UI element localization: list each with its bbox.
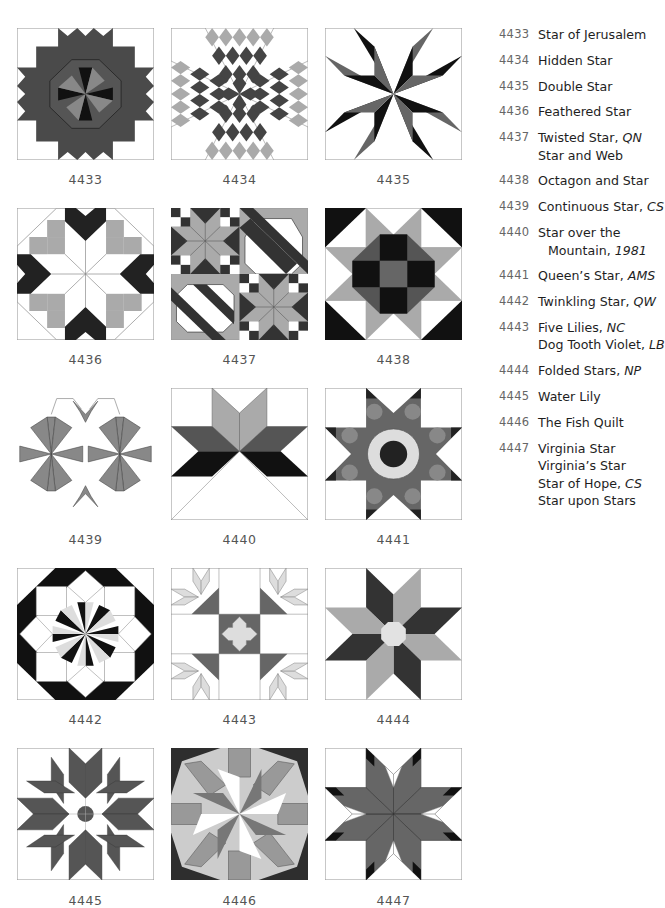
quilt-block-4445 bbox=[17, 748, 154, 880]
source-abbrev: LB bbox=[649, 337, 665, 352]
block-number: 4444 bbox=[499, 362, 538, 380]
block-number: 4442 bbox=[499, 293, 538, 311]
index-entry: 4447 Virginia Star Virginia’s Star Star … bbox=[499, 440, 664, 510]
block-caption: 4437 bbox=[171, 352, 308, 367]
quilt-block-4434 bbox=[171, 28, 308, 160]
index-entry: 4439 Continuous Star, CS bbox=[499, 198, 664, 216]
block-name: Twisted Star, bbox=[538, 130, 622, 145]
fish-quilt-illustration bbox=[171, 748, 308, 880]
quilt-block-4440 bbox=[171, 388, 308, 520]
feathered-star-illustration bbox=[17, 208, 154, 340]
octagon-and-star-illustration bbox=[325, 208, 462, 340]
block-name: Star of Jerusalem bbox=[538, 27, 646, 42]
block-name: Water Lily bbox=[538, 389, 601, 404]
block-number: 4440 bbox=[499, 224, 538, 259]
virginia-star-illustration bbox=[325, 748, 462, 880]
block-name-index: 4433 Star of Jerusalem 4434 Hidden Star … bbox=[499, 26, 664, 518]
quilt-block-4435 bbox=[325, 28, 462, 160]
star-of-jerusalem-illustration bbox=[17, 28, 154, 160]
star-over-mountain-illustration bbox=[171, 388, 308, 520]
index-entry: 4434 Hidden Star bbox=[499, 52, 664, 70]
double-star-illustration bbox=[325, 28, 462, 160]
block-name: Continuous Star, bbox=[538, 199, 647, 214]
quilt-block-4438 bbox=[325, 208, 462, 340]
block-number: 4436 bbox=[499, 103, 538, 121]
block-caption: 4438 bbox=[325, 352, 462, 367]
quilt-block-4446 bbox=[171, 748, 308, 880]
block-name: Virginia’s Star bbox=[538, 458, 626, 473]
block-name: Star and Web bbox=[538, 148, 623, 163]
queens-star-illustration bbox=[325, 388, 462, 520]
index-entry: 4443 Five Lilies, NC Dog Tooth Violet, L… bbox=[499, 319, 664, 354]
hidden-star-illustration bbox=[171, 28, 308, 160]
index-entry: 4444 Folded Stars, NP bbox=[499, 362, 664, 380]
block-name: Hidden Star bbox=[538, 53, 613, 68]
index-entry: 4433 Star of Jerusalem bbox=[499, 26, 664, 44]
block-caption: 4440 bbox=[171, 532, 308, 547]
index-entry: 4438 Octagon and Star bbox=[499, 172, 664, 190]
block-caption: 4445 bbox=[17, 893, 154, 908]
block-number: 4441 bbox=[499, 267, 538, 285]
block-name: Queen’s Star, bbox=[538, 268, 628, 283]
block-number: 4443 bbox=[499, 319, 538, 354]
quilt-block-4443 bbox=[171, 568, 308, 700]
block-number: 4445 bbox=[499, 388, 538, 406]
index-entry: 4445 Water Lily bbox=[499, 388, 664, 406]
source-abbrev: QN bbox=[622, 130, 641, 145]
block-number: 4435 bbox=[499, 78, 538, 96]
block-name: Twinkling Star, bbox=[538, 294, 634, 309]
index-entry: 4446 The Fish Quilt bbox=[499, 414, 664, 432]
block-name: Mountain, bbox=[548, 243, 615, 258]
quilt-block-4442 bbox=[17, 568, 154, 700]
water-lily-illustration bbox=[17, 748, 154, 880]
block-number: 4433 bbox=[499, 26, 538, 44]
block-caption: 4447 bbox=[325, 893, 462, 908]
block-number: 4437 bbox=[499, 129, 538, 164]
quilt-block-4433 bbox=[17, 28, 154, 160]
quilt-block-4437 bbox=[171, 208, 308, 340]
block-name: Star over the bbox=[538, 225, 621, 240]
index-entry: 4441 Queen’s Star, AMS bbox=[499, 267, 664, 285]
block-caption: 4439 bbox=[17, 532, 154, 547]
block-caption: 4446 bbox=[171, 893, 308, 908]
twinkling-star-illustration bbox=[17, 568, 154, 700]
block-name: Feathered Star bbox=[538, 104, 631, 119]
source-abbrev: AMS bbox=[628, 268, 655, 283]
block-number: 4446 bbox=[499, 414, 538, 432]
folded-stars-illustration bbox=[325, 568, 462, 700]
twisted-star-illustration bbox=[171, 208, 308, 340]
block-name: Dog Tooth Violet, bbox=[538, 337, 649, 352]
block-name: Star of Hope, bbox=[538, 476, 625, 491]
quilt-block-4447 bbox=[325, 748, 462, 880]
quilt-block-4441 bbox=[325, 388, 462, 520]
block-number: 4438 bbox=[499, 172, 538, 190]
block-name: Star upon Stars bbox=[538, 493, 636, 508]
five-lilies-illustration bbox=[171, 568, 308, 700]
block-name: Double Star bbox=[538, 79, 612, 94]
block-name: Octagon and Star bbox=[538, 173, 649, 188]
source-abbrev: NP bbox=[624, 363, 641, 378]
quilt-block-4444 bbox=[325, 568, 462, 700]
source-abbrev: CS bbox=[625, 476, 642, 491]
source-abbrev: NC bbox=[607, 320, 625, 335]
continuous-star-illustration bbox=[17, 388, 154, 520]
index-entry: 4437 Twisted Star, QN Star and Web bbox=[499, 129, 664, 164]
index-entry: 4435 Double Star bbox=[499, 78, 664, 96]
source-abbrev: QW bbox=[634, 294, 656, 309]
quilt-block-4439 bbox=[17, 388, 154, 520]
block-name: Five Lilies, bbox=[538, 320, 607, 335]
block-caption: 4433 bbox=[17, 172, 154, 187]
block-caption: 4435 bbox=[325, 172, 462, 187]
block-number: 4439 bbox=[499, 198, 538, 216]
block-caption: 4434 bbox=[171, 172, 308, 187]
block-number: 4434 bbox=[499, 52, 538, 70]
block-name: The Fish Quilt bbox=[538, 415, 624, 430]
block-name: Folded Stars, bbox=[538, 363, 624, 378]
index-entry: 4442 Twinkling Star, QW bbox=[499, 293, 664, 311]
index-entry: 4440 Star over the Mountain, 1981 bbox=[499, 224, 664, 259]
block-number: 4447 bbox=[499, 440, 538, 510]
block-caption: 4443 bbox=[171, 712, 308, 727]
block-caption: 4444 bbox=[325, 712, 462, 727]
block-caption: 4442 bbox=[17, 712, 154, 727]
quilt-block-4436 bbox=[17, 208, 154, 340]
